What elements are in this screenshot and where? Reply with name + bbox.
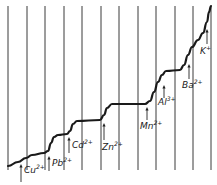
ion-charge: +: [206, 44, 211, 51]
ion-label-mn: Mn2+: [140, 120, 162, 131]
ion-charge: 2+: [63, 156, 72, 163]
ion-arrows: [19, 29, 208, 182]
ion-charge: 2+: [194, 78, 203, 85]
ion-symbol: Pb: [52, 158, 63, 168]
polarogram-diagram: Cu2+Pb2+Cd2+Zn2+Mn2+Al3+Ba2+K+: [0, 0, 217, 185]
ion-symbol: Zn: [102, 142, 114, 152]
ion-charge: 2+: [84, 138, 93, 145]
arrow-icon-mn: [145, 107, 148, 120]
arrow-icon-pb: [47, 156, 50, 171]
ion-symbol: Cd: [72, 140, 84, 150]
arrow-icon-cu: [19, 164, 22, 182]
ion-label-al: Al3+: [158, 96, 176, 107]
ion-charge: 2+: [114, 140, 123, 147]
ion-symbol: Cu: [24, 165, 36, 175]
ion-label-pb: Pb2+: [52, 157, 72, 168]
ion-label-cd: Cd2+: [72, 139, 93, 150]
ion-charge: 2+: [36, 163, 45, 170]
ion-label-zn: Zn2+: [102, 141, 123, 152]
arrow-icon-k: [205, 29, 208, 44]
ion-symbol: Mn: [140, 121, 153, 131]
ion-charge: 2+: [153, 119, 162, 126]
arrow-icon-cd: [67, 137, 70, 153]
arrow-icon-ba: [187, 64, 190, 79]
arrow-icon-zn: [102, 123, 105, 140]
ion-symbol: Ba: [182, 80, 194, 90]
ion-symbol: Al: [158, 97, 167, 107]
ion-label-ba: Ba2+: [182, 79, 203, 90]
ion-label-k: K+: [200, 45, 211, 56]
diagram-canvas: [0, 0, 217, 185]
ion-label-cu: Cu2+: [24, 164, 45, 175]
ion-charge: 3+: [167, 95, 176, 102]
